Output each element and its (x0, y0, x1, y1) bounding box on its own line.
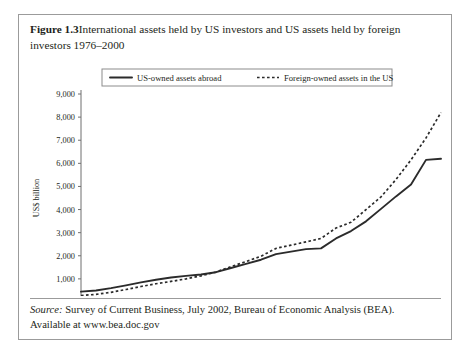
figure-panel: Figure 1.3International assets held by U… (18, 14, 452, 340)
y-tick-label: 7,000 (56, 136, 75, 145)
series-line (81, 159, 441, 292)
y-tick-label: 6,000 (56, 159, 75, 168)
y-tick-label: 2,000 (56, 252, 75, 261)
chart-legend: US-owned assets abroadForeign-owned asse… (102, 69, 394, 86)
legend-label: US-owned assets abroad (137, 73, 222, 83)
y-tick-label: 9,000 (56, 90, 75, 99)
y-tick-label: 1,000 (56, 275, 75, 284)
figure-caption-text: International assets held by US investor… (30, 23, 400, 51)
y-axis-ticks: 01,0002,0003,0004,0005,0006,0007,0008,00… (56, 90, 81, 296)
y-tick-label: 3,000 (56, 229, 75, 238)
source-note: Source: Survey of Current Business, July… (30, 303, 440, 333)
y-axis-title: US$ billion (32, 178, 41, 217)
source-line-2: Available at www.bea.doc.gov (30, 319, 159, 330)
source-line-1: Survey of Current Business, July 2002, B… (63, 304, 395, 315)
source-divider (30, 298, 441, 299)
figure-label: Figure 1.3 (30, 23, 79, 35)
line-chart: 01,0002,0003,0004,0005,0006,0007,0008,00… (19, 61, 453, 296)
y-tick-label: 4,000 (56, 206, 75, 215)
chart-series (81, 112, 441, 295)
figure-caption: Figure 1.3International assets held by U… (30, 22, 438, 53)
source-label: Source: (30, 304, 63, 315)
chart-plot: 01,0002,0003,0004,0005,0006,0007,0008,00… (19, 61, 453, 296)
y-tick-label: 8,000 (56, 113, 75, 122)
y-tick-label: 5,000 (56, 182, 75, 191)
legend-label: Foreign-owned assets in the US (284, 73, 394, 83)
